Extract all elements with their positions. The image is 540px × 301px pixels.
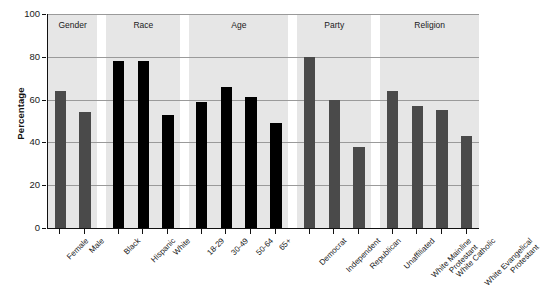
x-tick-mark — [275, 229, 276, 234]
bar — [353, 147, 364, 228]
bar — [113, 61, 124, 228]
x-tick-mark — [309, 229, 310, 234]
y-tick-mark-80 — [42, 57, 46, 58]
y-tick-label-100: 100 — [10, 9, 40, 19]
bar — [329, 100, 340, 228]
x-tick-mark — [59, 229, 60, 234]
bar — [138, 61, 149, 228]
x-tick-mark — [84, 229, 85, 234]
x-tick-label: Democrat — [318, 237, 349, 268]
panel-title-race: Race — [106, 20, 180, 30]
x-tick-mark — [358, 229, 359, 234]
x-tick-mark — [333, 229, 334, 234]
bar — [412, 106, 423, 228]
bar — [461, 136, 472, 228]
x-tick-mark — [416, 229, 417, 234]
x-tick-mark — [118, 229, 119, 234]
panel-title-religion: Religion — [380, 20, 479, 30]
bar — [79, 112, 90, 228]
panel-title-gender: Gender — [48, 20, 97, 30]
x-tick-mark — [142, 229, 143, 234]
x-tick-mark — [225, 229, 226, 234]
x-tick-mark — [167, 229, 168, 234]
y-tick-mark-100 — [42, 14, 46, 15]
panel-title-party: Party — [297, 20, 371, 30]
bar — [196, 102, 207, 228]
x-tick-label: Unaffiliated — [402, 237, 436, 271]
y-tick-mark-60 — [42, 100, 46, 101]
y-tick-label-60: 60 — [10, 95, 40, 105]
bar — [55, 91, 66, 228]
bar — [387, 91, 398, 228]
x-tick-mark — [392, 229, 393, 234]
plot-area: GenderRaceAgePartyReligion — [47, 14, 479, 229]
y-tick-mark-40 — [42, 142, 46, 143]
x-tick-label: Male — [88, 237, 106, 255]
plot-inner: GenderRaceAgePartyReligion — [48, 14, 479, 228]
x-tick-mark — [466, 229, 467, 234]
bar — [245, 97, 256, 228]
y-tick-label-0: 0 — [10, 223, 40, 233]
x-tick-mark — [441, 229, 442, 234]
x-tick-label: 65+ — [278, 237, 294, 253]
x-tick-mark — [201, 229, 202, 234]
x-tick-label: 18-29 — [206, 237, 227, 258]
bar — [304, 57, 315, 228]
y-tick-mark-0 — [42, 228, 46, 229]
y-tick-label-20: 20 — [10, 180, 40, 190]
x-tick-label: 50-64 — [255, 237, 276, 258]
y-tick-label-40: 40 — [10, 138, 40, 148]
bar — [162, 115, 173, 228]
y-tick-label-80: 80 — [10, 52, 40, 62]
y-axis-title: Percentage — [15, 54, 26, 174]
gridline-80 — [48, 57, 479, 58]
bar — [221, 87, 232, 228]
bar — [270, 123, 281, 228]
x-tick-mark — [250, 229, 251, 234]
x-tick-label: Black — [122, 237, 142, 257]
panel-title-age: Age — [189, 20, 288, 30]
gridline-100 — [48, 14, 479, 15]
bar — [436, 110, 447, 228]
y-tick-mark-20 — [42, 185, 46, 186]
x-tick-label: 30-49 — [230, 237, 251, 258]
